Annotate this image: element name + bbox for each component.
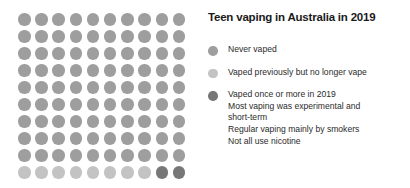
waffle-dot [18, 115, 31, 128]
legend-note-3: Regular vaping mainly by smokers [228, 124, 407, 136]
legend-item-vaped-previously: Vaped previously but no longer vape [207, 67, 407, 79]
waffle-dot [70, 115, 83, 128]
waffle-dot [138, 166, 151, 179]
waffle-dot [35, 115, 48, 128]
waffle-dot [87, 64, 100, 77]
waffle-dot [121, 81, 134, 94]
waffle-dot [52, 149, 65, 162]
waffle-dot [173, 98, 186, 111]
waffle-dot [121, 115, 134, 128]
chart-legend: Never vaped Vaped previously but no long… [207, 44, 407, 147]
waffle-chart-grid [18, 13, 190, 183]
waffle-dot [18, 166, 31, 179]
waffle-dot [35, 64, 48, 77]
waffle-dot [156, 98, 169, 111]
legend-label-vaped-previously: Vaped previously but no longer vape [228, 67, 407, 79]
waffle-dot [52, 30, 65, 43]
waffle-dot [156, 64, 169, 77]
waffle-dot [173, 47, 186, 60]
waffle-dot [18, 132, 31, 145]
legend-note-4: Not all use nicotine [228, 136, 407, 148]
waffle-dot [121, 132, 134, 145]
waffle-dot [121, 64, 134, 77]
waffle-dot [87, 30, 100, 43]
waffle-dot [52, 132, 65, 145]
waffle-dot [121, 30, 134, 43]
waffle-dot [138, 64, 151, 77]
waffle-dot [87, 13, 100, 26]
waffle-dot [138, 13, 151, 26]
chart-info-panel: Teen vaping in Australia in 2019 Never v… [207, 0, 407, 188]
waffle-dot [87, 115, 100, 128]
waffle-dot [104, 149, 117, 162]
dot-icon [208, 69, 218, 79]
waffle-dot [104, 30, 117, 43]
waffle-dot [173, 30, 186, 43]
waffle-dot [121, 98, 134, 111]
waffle-dot [70, 149, 83, 162]
waffle-dot [138, 98, 151, 111]
waffle-dot [87, 47, 100, 60]
waffle-dot [87, 81, 100, 94]
waffle-dot [121, 13, 134, 26]
waffle-dot [70, 98, 83, 111]
waffle-dot [87, 132, 100, 145]
waffle-dot [35, 30, 48, 43]
waffle-dot [18, 64, 31, 77]
waffle-dot [156, 13, 169, 26]
waffle-dot [52, 47, 65, 60]
teen-vaping-infographic: Teen vaping in Australia in 2019 Never v… [0, 0, 410, 188]
waffle-dot [35, 132, 48, 145]
waffle-dot [104, 115, 117, 128]
waffle-dot [138, 132, 151, 145]
waffle-dot [18, 81, 31, 94]
legend-note-1: Most vaping was experimental and [228, 101, 407, 113]
waffle-dot [173, 132, 186, 145]
waffle-dot [52, 98, 65, 111]
waffle-dot [52, 166, 65, 179]
waffle-dot [173, 166, 186, 179]
dot-icon [208, 46, 218, 56]
waffle-dot [87, 98, 100, 111]
waffle-dot [104, 98, 117, 111]
waffle-dot [104, 132, 117, 145]
waffle-dot [18, 149, 31, 162]
waffle-dot [156, 149, 169, 162]
waffle-dot [156, 30, 169, 43]
waffle-dot [18, 47, 31, 60]
waffle-dot [52, 115, 65, 128]
waffle-dot [173, 149, 186, 162]
waffle-dot [104, 166, 117, 179]
waffle-dot [138, 47, 151, 60]
waffle-dot [87, 166, 100, 179]
waffle-dot [138, 30, 151, 43]
waffle-dot [18, 98, 31, 111]
legend-note-2: short-term [228, 112, 407, 124]
waffle-dot [121, 149, 134, 162]
legend-label-vaped-recently: Vaped once or more in 2019 [228, 89, 407, 101]
dot-icon [208, 91, 218, 101]
waffle-dot [138, 81, 151, 94]
waffle-dot [87, 149, 100, 162]
waffle-dot [18, 30, 31, 43]
legend-label-never-vaped: Never vaped [228, 44, 407, 56]
waffle-dot [52, 13, 65, 26]
legend-item-never-vaped: Never vaped [207, 44, 407, 56]
waffle-dot [156, 115, 169, 128]
waffle-dot [35, 13, 48, 26]
waffle-dot [104, 13, 117, 26]
waffle-dot [156, 132, 169, 145]
waffle-dot [70, 166, 83, 179]
waffle-dot [70, 132, 83, 145]
waffle-dot [52, 64, 65, 77]
waffle-dot [156, 47, 169, 60]
waffle-dot [70, 47, 83, 60]
waffle-dot [173, 64, 186, 77]
waffle-dot [138, 115, 151, 128]
waffle-dot [18, 13, 31, 26]
waffle-dot [70, 81, 83, 94]
waffle-dot [121, 47, 134, 60]
waffle-dot [35, 98, 48, 111]
waffle-dot [121, 166, 134, 179]
waffle-dot [104, 81, 117, 94]
